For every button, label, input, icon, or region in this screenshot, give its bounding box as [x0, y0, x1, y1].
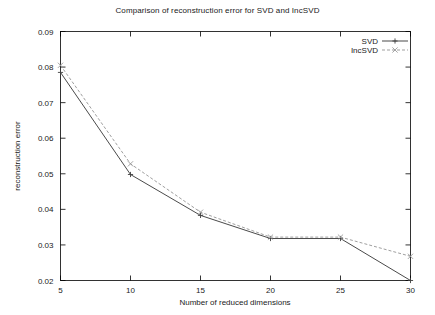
y-tick-label: 0.09 [38, 28, 54, 37]
x-tick-label: 15 [196, 286, 205, 295]
x-tick-label: 20 [266, 286, 275, 295]
y-axis-title: reconstruction error [13, 121, 22, 191]
series-line-svd [61, 72, 411, 280]
y-tick-label: 0.07 [38, 99, 54, 108]
data-series-group [58, 63, 413, 283]
y-tick-label: 0.08 [38, 63, 54, 72]
x-axis-title: Number of reduced dimensions [179, 298, 290, 307]
y-tick-label: 0.03 [38, 241, 54, 250]
x-tick-label: 10 [126, 286, 135, 295]
x-tick-label: 25 [336, 286, 345, 295]
x-tick-label: 5 [58, 286, 63, 295]
plot-frame [61, 32, 411, 281]
chart-plot-area: 0.020.030.040.050.060.070.080.09 5101520… [0, 0, 435, 315]
y-tick-label: 0.04 [38, 205, 54, 214]
series-line-incsvd [61, 65, 411, 256]
chart-screenshot: Comparison of reconstruction error for S… [0, 0, 435, 315]
legend-label-svd: SVD [362, 37, 379, 46]
x-axis: 51015202530 [58, 32, 415, 295]
y-tick-label: 0.06 [38, 134, 54, 143]
x-tick-label: 30 [406, 286, 415, 295]
legend-label-incsvd: IncSVD [351, 46, 378, 55]
y-tick-label: 0.02 [38, 277, 54, 286]
y-tick-label: 0.05 [38, 170, 54, 179]
chart-legend: SVDIncSVD [351, 37, 408, 55]
